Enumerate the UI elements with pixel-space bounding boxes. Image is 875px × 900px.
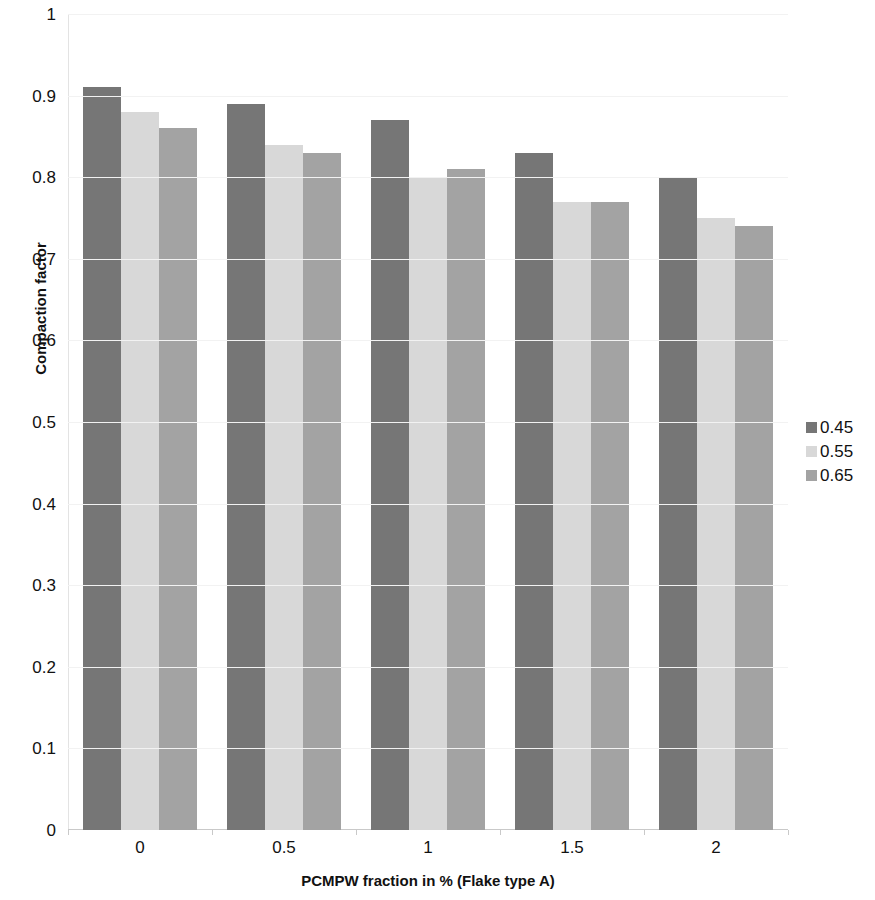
x-axis-tick-label: 2 [656,838,776,858]
bar[interactable] [697,218,735,830]
gridline [68,585,788,586]
y-axis-tick-label: 0.4 [0,495,56,512]
bar[interactable] [515,153,553,830]
x-axis-tick [212,830,213,835]
x-axis-tick [500,830,501,835]
legend-swatch-icon [806,422,817,433]
bar[interactable] [371,120,409,830]
y-axis-tick-label: 0 [0,822,56,839]
bar-chart: Compaction factor 00.10.20.30.40.50.60.7… [0,0,875,900]
plot-area [68,14,788,830]
gridline [68,748,788,749]
x-axis-title: PCMPW fraction in % (Flake type A) [68,872,788,889]
y-axis-tick-label: 0.1 [0,740,56,757]
bar[interactable] [591,202,629,830]
y-axis-tick-labels: 00.10.20.30.40.50.60.70.80.91 [0,0,56,900]
y-axis-tick-label: 0.5 [0,414,56,431]
y-axis-tick-label: 0.6 [0,332,56,349]
gridline [68,96,788,97]
gridline [68,259,788,260]
y-axis-tick-label: 0.7 [0,250,56,267]
x-axis-tick [356,830,357,835]
gridline [68,177,788,178]
y-axis-tick-label: 1 [0,6,56,23]
bar[interactable] [227,104,265,830]
legend-label: 0.55 [820,443,853,460]
bar[interactable] [121,112,159,830]
y-axis-tick-label: 0.8 [0,169,56,186]
legend-swatch-icon [806,470,817,481]
bar[interactable] [553,202,591,830]
gridline [68,14,788,15]
bar[interactable] [447,169,485,830]
legend-item[interactable]: 0.45 [806,415,853,439]
x-axis-tick-label: 1.5 [512,838,632,858]
bar[interactable] [265,145,303,830]
y-axis-tick-label: 0.2 [0,658,56,675]
legend-label: 0.65 [820,467,853,484]
legend-swatch-icon [806,446,817,457]
gridline [68,422,788,423]
legend-item[interactable]: 0.55 [806,439,853,463]
y-axis-tick-label: 0.3 [0,577,56,594]
x-axis-tick-label: 0.5 [224,838,344,858]
bar[interactable] [159,128,197,830]
bar[interactable] [83,87,121,830]
gridline [68,504,788,505]
legend-label: 0.45 [820,419,853,436]
x-axis-tick-labels: 00.511.52 [68,838,788,866]
gridline [68,340,788,341]
legend: 0.450.550.65 [806,415,853,487]
bar[interactable] [303,153,341,830]
x-axis-tick [68,830,69,835]
legend-item[interactable]: 0.65 [806,463,853,487]
x-axis-tick-label: 0 [80,838,200,858]
bar[interactable] [735,226,773,830]
y-axis-tick-label: 0.9 [0,87,56,104]
x-axis-tick [788,830,789,835]
x-axis-tick-label: 1 [368,838,488,858]
x-axis-tick [644,830,645,835]
gridline [68,667,788,668]
